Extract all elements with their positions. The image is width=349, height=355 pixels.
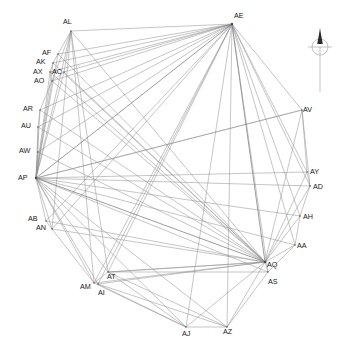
- graph-edge: [36, 178, 300, 216]
- graph-node[interactable]: AF: [42, 48, 59, 57]
- node-label: AV: [303, 105, 312, 114]
- node-label: AK: [36, 57, 46, 66]
- node-label: AE: [234, 11, 244, 20]
- graph-canvas: ALAEAFAKAXACAOARAUAWAPABANAMAIATAJAZASAQ…: [0, 0, 349, 355]
- graph-edge: [98, 284, 227, 327]
- node-label: AI: [98, 288, 105, 297]
- graph-edge: [94, 24, 232, 283]
- node-marker: [35, 177, 37, 179]
- graph-edge: [302, 110, 307, 172]
- graph-edge: [108, 272, 227, 327]
- graph-edge: [36, 24, 232, 178]
- graph-node[interactable]: AV: [301, 105, 312, 114]
- graph-edge: [36, 178, 295, 245]
- node-label: AR: [23, 104, 33, 113]
- graph-edge: [36, 172, 307, 178]
- node-label: AO: [34, 76, 45, 85]
- node-marker: [306, 171, 307, 172]
- graph-edge: [265, 186, 310, 262]
- graph-edge: [36, 178, 108, 272]
- node-label: AT: [107, 272, 116, 281]
- node-marker: [57, 53, 58, 54]
- graph-node[interactable]: AP: [18, 173, 37, 182]
- graph-edge: [38, 152, 265, 262]
- node-label: AD: [313, 182, 323, 191]
- graph-node[interactable]: AD: [309, 182, 323, 191]
- node-label: AC: [52, 67, 62, 76]
- node-marker: [267, 271, 268, 272]
- graph-edge: [38, 24, 232, 127]
- graph-edge: [36, 81, 52, 178]
- graph-edge: [36, 178, 186, 327]
- graph-edge: [232, 24, 295, 245]
- graph-node[interactable]: AN: [36, 223, 53, 232]
- graph-edge: [36, 110, 302, 178]
- node-label: AS: [268, 277, 278, 286]
- graph-edge: [64, 24, 232, 72]
- graph-edge: [108, 262, 265, 272]
- graph-node[interactable]: AT: [107, 271, 116, 281]
- node-marker: [37, 151, 38, 152]
- node-marker: [70, 30, 71, 31]
- graph-edge: [53, 24, 232, 63]
- graph-node[interactable]: AM: [80, 282, 95, 291]
- graph-node[interactable]: AH: [299, 212, 313, 221]
- node-label: AA: [297, 241, 307, 250]
- graph-edge: [71, 24, 232, 31]
- graph-node[interactable]: AJ: [182, 326, 191, 338]
- graph-node[interactable]: AW: [19, 146, 39, 155]
- node-marker: [294, 244, 295, 245]
- graph-node[interactable]: AL: [63, 17, 72, 32]
- network-graph-figure: ALAEAFAKAXACAOARAUAWAPABANAMAIATAJAZASAQ…: [0, 0, 349, 355]
- node-label: AH: [303, 212, 313, 221]
- node-marker: [37, 126, 38, 127]
- node-label: AQ: [267, 260, 278, 269]
- node-label: AB: [28, 214, 38, 223]
- graph-edge: [52, 229, 94, 283]
- graph-node[interactable]: AR: [23, 104, 41, 113]
- graph-edge: [52, 31, 71, 229]
- graph-edge: [38, 24, 232, 152]
- node-marker: [51, 80, 52, 81]
- graph-node[interactable]: AA: [294, 241, 306, 250]
- node-marker: [97, 283, 98, 284]
- node-marker: [185, 326, 186, 327]
- node-marker: [49, 71, 50, 72]
- node-label: AM: [80, 282, 91, 291]
- graph-node[interactable]: AX: [33, 67, 51, 76]
- node-label: AW: [19, 146, 31, 155]
- node-label: AN: [36, 223, 46, 232]
- graph-edge: [36, 178, 268, 272]
- node-label: AY: [310, 167, 319, 176]
- graph-edge: [232, 24, 307, 172]
- node-label: AF: [42, 48, 52, 57]
- graph-edge: [36, 178, 227, 327]
- graph-edge: [227, 24, 232, 327]
- node-marker: [93, 282, 94, 283]
- graph-edge: [38, 127, 265, 262]
- node-label: AJ: [182, 329, 191, 338]
- node-label: AP: [18, 173, 28, 182]
- graph-node[interactable]: AB: [28, 214, 47, 223]
- node-marker: [231, 23, 233, 25]
- graph-edge: [40, 110, 265, 262]
- node-marker: [264, 261, 266, 263]
- graph-node[interactable]: AZ: [223, 326, 233, 336]
- graph-node[interactable]: AU: [21, 121, 39, 130]
- node-marker: [39, 109, 40, 110]
- graph-node[interactable]: AS: [267, 271, 277, 286]
- graph-edge: [265, 216, 300, 262]
- node-label: AX: [33, 67, 43, 76]
- node-marker: [51, 228, 52, 229]
- node-label: AZ: [223, 327, 233, 336]
- node-label: AU: [21, 121, 31, 130]
- graph-edge: [98, 284, 186, 327]
- graph-edge: [227, 272, 268, 327]
- graph-edge: [36, 178, 310, 186]
- node-marker: [45, 220, 46, 221]
- graph-edge: [108, 272, 186, 327]
- graph-node[interactable]: AC: [52, 67, 65, 76]
- graph-node[interactable]: AK: [36, 57, 54, 66]
- compass-needle-north: [317, 29, 323, 44]
- graph-node[interactable]: AE: [231, 11, 244, 25]
